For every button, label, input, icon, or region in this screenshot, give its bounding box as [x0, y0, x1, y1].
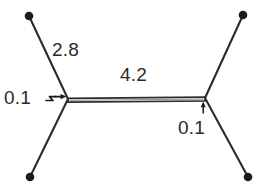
terminal-dot-bottom-right: [244, 173, 253, 182]
right-vertex-arrow-icon: [201, 102, 206, 114]
lower-right-bond: [205, 98, 248, 177]
left-vertex-arrow-icon: [46, 94, 67, 101]
central-double-bond: [68, 97, 205, 102]
displacement-label-left: 0.1: [4, 88, 31, 107]
central-bond-inner-shading: [70, 99, 203, 100]
lower-left-bond: [30, 99, 68, 177]
bond-length-label-central: 4.2: [120, 65, 147, 84]
right-arrow-head: [201, 102, 206, 108]
terminal-dot-top-right: [239, 11, 248, 20]
terminal-dot-top-left: [25, 12, 34, 21]
central-bond-lower-line: [68, 101, 205, 102]
terminal-dot-bottom-left: [26, 173, 35, 182]
diagram-canvas: [0, 0, 264, 187]
central-bond-upper-line: [68, 97, 205, 98]
displacement-label-right: 0.1: [178, 118, 205, 137]
upper-right-bond: [205, 15, 243, 98]
bond-length-label-upper-left: 2.8: [52, 40, 79, 59]
molecular-bond-diagram: 2.8 4.2 0.1 0.1: [0, 0, 264, 187]
